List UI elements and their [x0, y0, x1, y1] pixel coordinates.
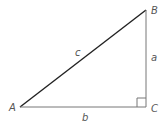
vertex-label-c: C: [151, 103, 158, 114]
vertex-label-b: B: [151, 5, 158, 16]
right-angle-marker: [137, 98, 146, 107]
vertex-label-a: A: [8, 102, 16, 113]
side-label-a: a: [151, 52, 157, 63]
side-label-c: c: [75, 47, 81, 58]
triangle-diagram: A B C a b c: [0, 0, 165, 129]
side-c-hypotenuse: [20, 10, 146, 107]
side-label-b: b: [82, 112, 88, 123]
